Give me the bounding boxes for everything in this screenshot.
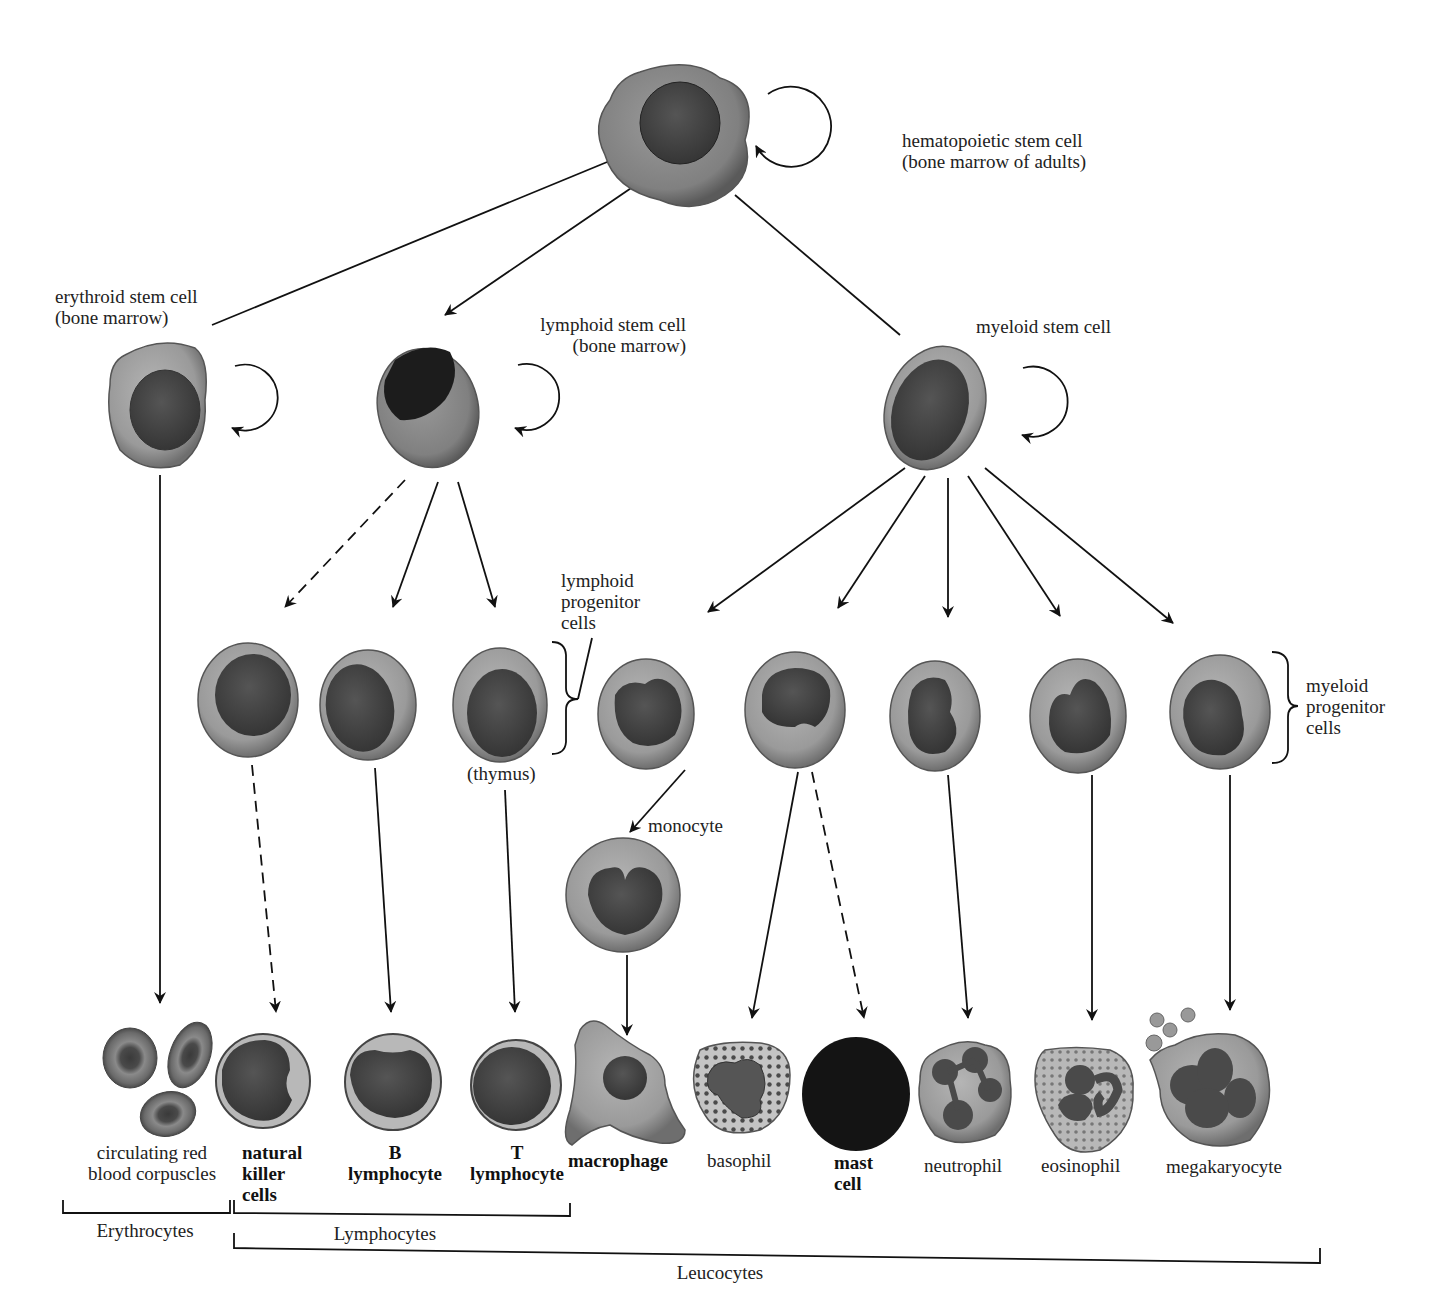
neutrophil-label: neutrophil	[924, 1155, 1002, 1176]
erythroid-stem-cell	[109, 343, 207, 468]
lymphoid-progenitor-label: lymphoid progenitor cells	[561, 570, 640, 633]
edge-neut-progenitor-neutrophil	[948, 775, 968, 1018]
eosinophil-progenitor-cell	[1030, 659, 1126, 773]
myeloid-progenitor-line3: cells	[1306, 717, 1385, 738]
b-lymphocyte-label: B lymphocyte	[330, 1142, 460, 1184]
erythroid-label-line2: (bone marrow)	[55, 307, 197, 328]
lymphoid-label-line1: lymphoid stem cell	[500, 314, 686, 335]
lymphoid-progenitor-pointer	[578, 638, 592, 699]
t-progenitor-cell	[453, 648, 547, 762]
lymphoid-progenitor-line3: cells	[561, 612, 640, 633]
red-blood-corpuscles	[103, 1016, 220, 1142]
b-label-line1: B	[330, 1142, 460, 1163]
hematopoietic-stem-cell	[599, 65, 750, 207]
neutrophil-progenitor-cell	[890, 661, 980, 771]
mast-label-line2: cell	[834, 1173, 873, 1194]
lymphoid-stem-cell	[364, 337, 492, 479]
edge-baso-progenitor-mast	[812, 772, 864, 1018]
lymphoid-stem-cell-label: lymphoid stem cell (bone marrow)	[500, 314, 686, 356]
hematopoietic-label-line2: (bone marrow of adults)	[902, 151, 1086, 172]
rbc-label: circulating red blood corpuscles	[72, 1142, 232, 1184]
b-lymphocyte-cell	[345, 1034, 441, 1130]
edge-hsc-myeloid	[735, 195, 900, 335]
megakaryocyte-cell	[1146, 1008, 1270, 1146]
lymphocytes-category-label: Lymphocytes	[300, 1223, 470, 1244]
t-lymphocyte-cell	[471, 1040, 561, 1130]
edge-b-progenitor-b	[375, 768, 391, 1012]
natural-killer-cell	[216, 1034, 310, 1128]
mast-cell	[802, 1037, 910, 1151]
hematopoietic-stem-cell-label: hematopoietic stem cell (bone marrow of …	[902, 130, 1086, 172]
self-renewal-icon-lymphoid	[515, 364, 559, 430]
eosinophil-label: eosinophil	[1041, 1155, 1120, 1176]
erythroid-stem-cell-label: erythroid stem cell (bone marrow)	[55, 286, 197, 328]
basophil-cell	[694, 1042, 790, 1133]
mast-label-line1: mast	[834, 1152, 873, 1173]
nk-progenitor-cell	[198, 643, 298, 757]
megakaryocyte-progenitor-cell	[1170, 655, 1270, 769]
megakaryocyte-label: megakaryocyte	[1166, 1156, 1282, 1177]
edge-t-progenitor-t	[505, 790, 515, 1012]
macrophage-cell	[565, 1021, 685, 1145]
myeloid-stem-cell	[867, 332, 1002, 484]
lymphoid-label-line2: (bone marrow)	[500, 335, 686, 356]
basophil-progenitor-cell	[745, 652, 845, 768]
self-renewal-icon-hsc	[756, 87, 831, 167]
b-label-line2: lymphocyte	[330, 1163, 460, 1184]
lymphoid-progenitor-brace	[552, 642, 578, 754]
t-lymphocyte-label: T lymphocyte	[452, 1142, 582, 1184]
edge-myeloid-baso	[838, 476, 925, 608]
t-label-line2: lymphocyte	[452, 1163, 582, 1184]
rbc-label-line1: circulating red	[72, 1142, 232, 1163]
myeloid-stem-cell-label: myeloid stem cell	[976, 316, 1111, 337]
monocyte-progenitor-cell	[598, 659, 694, 769]
erythroid-label-line1: erythroid stem cell	[55, 286, 197, 307]
leucocytes-category-label: Leucocytes	[640, 1262, 800, 1283]
nk-label-line3: cells	[242, 1184, 302, 1205]
erythrocytes-category-label: Erythrocytes	[70, 1220, 220, 1241]
nk-cell-label: natural killer cells	[242, 1142, 302, 1205]
basophil-label: basophil	[707, 1150, 771, 1171]
erythrocytes-bracket	[63, 1200, 230, 1213]
edge-lymphoid-b	[393, 482, 438, 607]
nk-label-line1: natural	[242, 1142, 302, 1163]
edge-lymphoid-nk	[285, 480, 405, 607]
myeloid-progenitor-label: myeloid progenitor cells	[1306, 675, 1385, 738]
nk-label-line2: killer	[242, 1163, 302, 1184]
myeloid-progenitor-brace	[1272, 652, 1298, 763]
myeloid-progenitor-line1: myeloid	[1306, 675, 1385, 696]
eosinophil-cell	[1035, 1048, 1133, 1153]
edge-nk-progenitor-nk	[252, 765, 276, 1012]
myeloid-progenitor-line2: progenitor	[1306, 696, 1385, 717]
myeloid-label-line1: myeloid stem cell	[976, 316, 1111, 337]
mast-cell-label: mast cell	[834, 1152, 873, 1194]
edge-hsc-lymphoid	[445, 182, 640, 315]
self-renewal-icon-erythroid	[232, 365, 278, 431]
edge-myeloid-eos	[968, 476, 1060, 616]
lymphoid-progenitor-line2: progenitor	[561, 591, 640, 612]
neutrophil-cell	[919, 1042, 1011, 1143]
edge-baso-progenitor-basophil	[752, 772, 798, 1018]
monocyte-label: monocyte	[648, 815, 723, 836]
edge-lymphoid-t	[458, 482, 495, 607]
macrophage-label: macrophage	[568, 1150, 668, 1171]
monocyte-cell	[566, 838, 680, 952]
hematopoiesis-diagram	[0, 0, 1447, 1300]
self-renewal-icon-myeloid	[1022, 367, 1068, 437]
b-progenitor-cell	[319, 650, 416, 760]
hematopoietic-label-line1: hematopoietic stem cell	[902, 130, 1086, 151]
lymphoid-progenitor-line1: lymphoid	[561, 570, 640, 591]
t-label-line1: T	[452, 1142, 582, 1163]
thymus-label: (thymus)	[467, 763, 536, 784]
edge-myeloid-mono	[708, 468, 905, 612]
rbc-label-line2: blood corpuscles	[72, 1163, 232, 1184]
